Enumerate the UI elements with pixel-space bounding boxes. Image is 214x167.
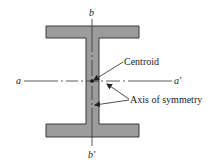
axis-leader-arrow-horizontal	[107, 84, 129, 99]
i-beam-diagram: b b' a a' Centroid Axis of symmetry	[0, 0, 214, 167]
diagram-canvas: b b' a a' Centroid Axis of symmetry	[0, 0, 214, 167]
centroid-label: Centroid	[124, 56, 159, 67]
axis-label-b-prime: b'	[88, 149, 96, 160]
axis-label-a-prime: a'	[174, 75, 182, 86]
axis-leader-arrow-vertical	[95, 100, 129, 105]
axis-label-a: a	[16, 75, 21, 86]
axis-label-b: b	[89, 7, 94, 18]
axis-of-symmetry-label: Axis of symmetry	[130, 94, 202, 105]
centroid-dot	[90, 79, 94, 83]
